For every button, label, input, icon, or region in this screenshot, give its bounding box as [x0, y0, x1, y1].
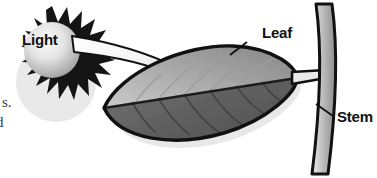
diagram-canvas [0, 0, 377, 178]
margin-text-fragment-2: d [0, 114, 4, 131]
label-light: Light [22, 31, 58, 48]
margin-text-fragment-1: s. [2, 94, 12, 111]
stem-icon [312, 4, 335, 174]
label-stem: Stem [337, 108, 373, 125]
label-leaf: Leaf [262, 24, 292, 41]
diagram-figure: Light Leaf Stem s. d [0, 0, 377, 178]
